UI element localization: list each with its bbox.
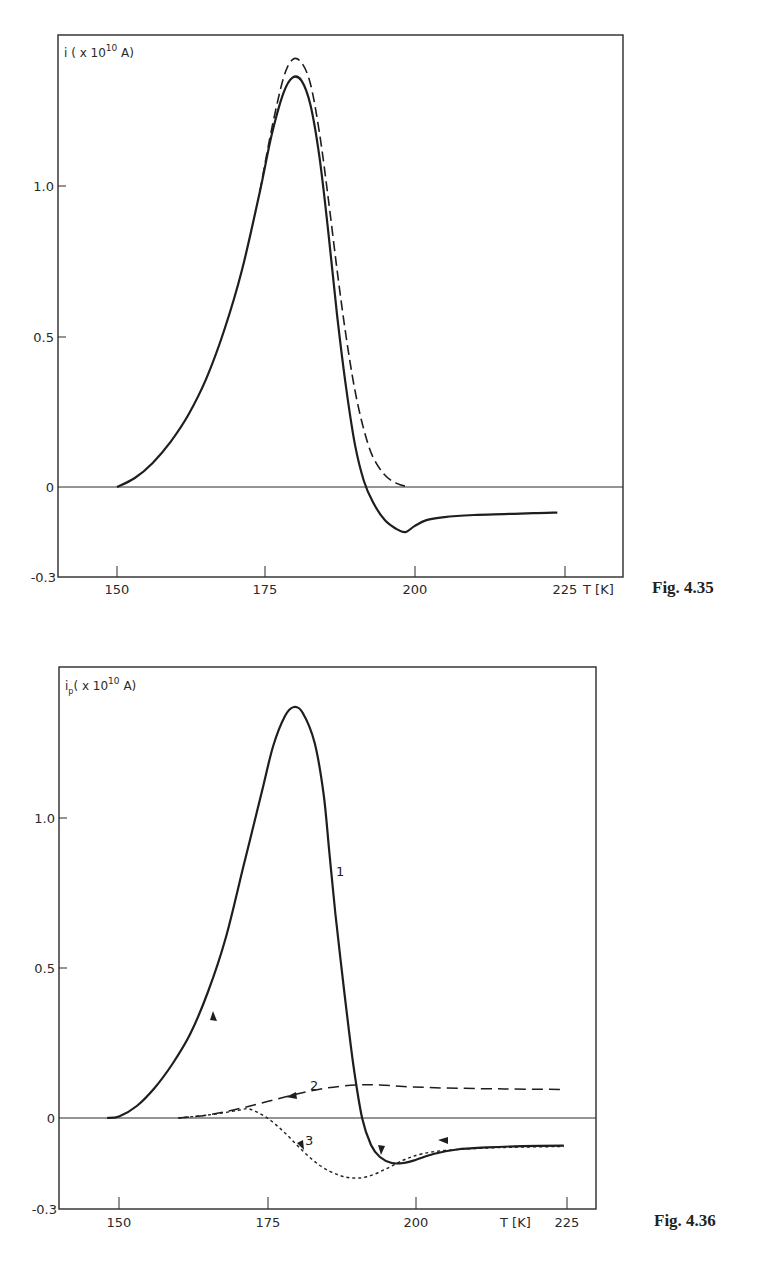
x-tick-label-200: 200 [404,1215,429,1230]
y-tick-label-0: 0 [47,1111,55,1126]
y-tick-label-0-5: 0.5 [33,330,54,345]
x-ticks [119,1197,567,1209]
x-tick-label-175: 175 [256,1215,281,1230]
arrow-left-icon [438,1137,448,1144]
x-tick-label-200: 200 [403,582,428,597]
x-tick-label-175: 175 [253,582,278,597]
y-ticks [58,186,66,337]
series-1-line [107,707,564,1164]
x-ticks [117,566,565,577]
figure-canvas: 1.0 0.5 0 -0.3 150 175 200 225 T [K] i (… [0,0,766,1286]
x-axis-label: T [K] [499,1215,531,1230]
y-axis-label: i ( x 1010 A) [64,43,134,60]
series-2-line [178,1085,564,1118]
y-tick-label-0: 0 [46,480,54,495]
x-tick-label-150: 150 [107,1215,132,1230]
plot-frame [58,35,623,577]
series-label-3: 3 [305,1133,313,1148]
series-solid-line [117,76,557,532]
y-tick-label-1-0: 1.0 [34,811,55,826]
arrow-down-right-icon [297,1140,304,1150]
arrow-down-icon [378,1145,385,1155]
figure-caption: Fig. 4.35 [652,578,714,597]
direction-arrows [210,1011,448,1155]
x-axis-label: T [K] [582,582,614,597]
plot-frame [59,667,596,1209]
series-dashed-line [260,58,409,487]
y-axis-label: ip( x 1010 A) [65,676,136,696]
y-ticks [59,818,67,968]
figure-4-36: 1.0 0.5 0 -0.3 150 175 200 225 T [K] ip(… [32,667,716,1230]
figure-4-35: 1.0 0.5 0 -0.3 150 175 200 225 T [K] i (… [31,35,714,597]
x-tick-label-225: 225 [553,582,578,597]
figure-caption: Fig. 4.36 [654,1211,716,1230]
arrow-up-icon [210,1011,217,1021]
y-tick-label-neg-0-3: -0.3 [31,570,56,585]
y-tick-label-1-0: 1.0 [33,179,54,194]
series-label-2: 2 [310,1078,318,1093]
series-label-1: 1 [336,864,344,879]
x-tick-label-225: 225 [555,1215,580,1230]
y-tick-label-neg-0-3: -0.3 [32,1202,57,1217]
y-tick-label-0-5: 0.5 [34,961,55,976]
x-tick-label-150: 150 [105,582,130,597]
